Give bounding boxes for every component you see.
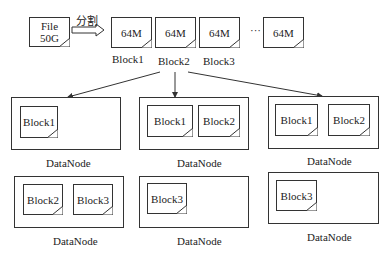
ellipsis: ··· bbox=[250, 24, 261, 36]
page-fold-icon bbox=[176, 205, 187, 214]
datanode-3-label: DataNode bbox=[307, 155, 352, 167]
stored-block-label: Block1 bbox=[154, 115, 186, 127]
block-chunk-2: 64M bbox=[155, 17, 196, 48]
block-chunk-3-label: Block3 bbox=[203, 55, 235, 67]
arrow-to-datanode-1 bbox=[68, 72, 160, 97]
chunk-size: 64M bbox=[273, 27, 294, 39]
page-fold-icon bbox=[59, 38, 70, 47]
datanode-1-label: DataNode bbox=[46, 157, 91, 169]
file-document: File50G bbox=[29, 17, 70, 47]
chunk-size: 64M bbox=[209, 27, 230, 39]
file-label: File bbox=[41, 20, 58, 32]
stored-block: Block2 bbox=[23, 184, 63, 215]
page-fold-icon bbox=[307, 127, 318, 136]
block-chunk-n: 64M bbox=[263, 17, 304, 48]
chunk-size: 64M bbox=[165, 27, 186, 39]
page-fold-icon bbox=[229, 39, 240, 48]
stored-block: Block1 bbox=[147, 105, 193, 137]
stored-block: Block3 bbox=[276, 180, 317, 211]
datanode-2-label: DataNode bbox=[177, 157, 222, 169]
block-chunk-3: 64M bbox=[199, 17, 240, 48]
stored-block: Block1 bbox=[275, 104, 318, 136]
page-fold-icon bbox=[306, 202, 317, 211]
stored-block: Block3 bbox=[73, 184, 113, 215]
datanode-5-label: DataNode bbox=[177, 235, 222, 247]
block-chunk-1-label: Block1 bbox=[112, 53, 144, 65]
page-fold-icon bbox=[141, 39, 152, 48]
stored-block-label: Block3 bbox=[77, 194, 109, 206]
datanode-4: Block2 Block3 bbox=[14, 176, 124, 228]
stored-block: Block2 bbox=[328, 104, 370, 136]
datanode-4-label: DataNode bbox=[53, 235, 98, 247]
stored-block-label: Block2 bbox=[203, 115, 235, 127]
datanode-2: Block1 Block2 bbox=[139, 97, 249, 150]
page-fold-icon bbox=[182, 128, 193, 137]
arrow-to-datanode-3 bbox=[188, 72, 322, 96]
stored-block-label: Block3 bbox=[151, 193, 183, 205]
page-fold-icon bbox=[293, 39, 304, 48]
page-fold-icon bbox=[52, 206, 63, 215]
file-size: 50G bbox=[40, 32, 59, 44]
block-chunk-2-label: Block2 bbox=[158, 55, 190, 67]
block-chunk-1: 64M bbox=[111, 17, 152, 48]
page-fold-icon bbox=[359, 127, 370, 136]
stored-block: Block1 bbox=[20, 106, 58, 138]
stored-block-label: Block2 bbox=[333, 114, 365, 126]
page-fold-icon bbox=[47, 129, 58, 138]
stored-block: Block3 bbox=[147, 183, 187, 214]
stored-block-label: Block3 bbox=[281, 190, 313, 202]
chunk-size: 64M bbox=[121, 27, 142, 39]
split-label: 分割 bbox=[76, 12, 98, 28]
page-fold-icon bbox=[185, 39, 196, 48]
page-fold-icon bbox=[229, 128, 240, 137]
datanode-6: Block3 bbox=[268, 172, 379, 224]
stored-block-label: Block1 bbox=[281, 114, 313, 126]
stored-block-label: Block2 bbox=[27, 194, 59, 206]
datanode-1: Block1 bbox=[11, 97, 121, 150]
datanode-3: Block1 Block2 bbox=[268, 96, 379, 149]
stored-block-label: Block1 bbox=[23, 116, 55, 128]
page-fold-icon bbox=[102, 206, 113, 215]
datanode-6-label: DataNode bbox=[307, 231, 352, 243]
stored-block: Block2 bbox=[198, 105, 240, 137]
datanode-5: Block3 bbox=[139, 176, 249, 228]
